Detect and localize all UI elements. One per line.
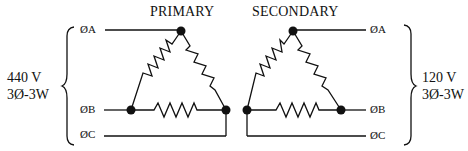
delta-delta-transformer-diagram	[0, 0, 468, 151]
secondary-node-bottom-left	[243, 106, 252, 115]
secondary-coil-bottom	[247, 103, 341, 117]
secondary-title: SECONDARY	[252, 5, 339, 18]
secondary-coil-right	[293, 31, 341, 110]
primary-coil-right	[181, 31, 226, 110]
secondary-phase-b-label: ØB	[370, 103, 385, 116]
primary-title: PRIMARY	[150, 5, 214, 18]
primary-config: 3Ø-3W	[7, 86, 49, 103]
primary-node-bottom-right	[222, 106, 231, 115]
secondary-config: 3Ø-3W	[422, 86, 464, 103]
primary-coil-left	[131, 31, 181, 110]
primary-coil-bottom	[131, 103, 226, 117]
primary-voltage: 440 V	[7, 69, 49, 86]
primary-voltage-block: 440 V 3Ø-3W	[7, 69, 49, 103]
secondary-voltage: 120 V	[422, 69, 464, 86]
secondary-voltage-block: 120 V 3Ø-3W	[422, 69, 464, 103]
secondary-node-top	[289, 27, 298, 36]
secondary-phase-a-label: ØA	[370, 23, 386, 36]
primary-node-bottom-left	[127, 106, 136, 115]
primary-phase-a-label: ØA	[80, 23, 96, 36]
primary-node-top	[177, 27, 186, 36]
secondary-coil-left	[247, 31, 293, 110]
secondary-phase-c-label: ØC	[370, 129, 385, 142]
primary-phase-b-label: ØB	[80, 103, 95, 116]
primary-brace	[62, 27, 74, 145]
primary-phase-c-label: ØC	[80, 128, 95, 141]
secondary-node-bottom-right	[337, 106, 346, 115]
secondary-brace	[404, 25, 416, 145]
